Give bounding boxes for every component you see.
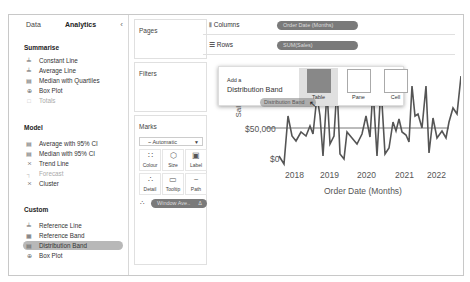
item-average-ci[interactable]: ▤Average with 95% CI	[25, 139, 98, 148]
section-summarise-title: Summarise	[24, 44, 59, 51]
y-tick-0: $0	[270, 154, 279, 164]
popup-title: Distribution Band	[227, 85, 283, 94]
rows-shelf[interactable]: ☰ Rows SUM(Sales)	[203, 37, 455, 55]
path-button[interactable]: ~Path	[185, 173, 207, 195]
columns-label: ⫴ Columns	[209, 21, 239, 29]
section-model-title: Model	[24, 124, 43, 131]
item-median-quartiles[interactable]: ▤Median with Quartiles	[25, 76, 100, 85]
average-ci-icon: ▤	[25, 140, 33, 147]
item-reference-band[interactable]: ▦Reference Band	[25, 231, 85, 240]
box-plot-icon: ⊕	[25, 252, 33, 259]
x-tick-2020: 2020	[357, 170, 376, 180]
window-avg-pill[interactable]: Window Ave.. Δ	[151, 199, 207, 208]
table-scope-icon	[307, 69, 331, 93]
item-cluster[interactable]: ⨯Cluster	[25, 179, 59, 188]
pages-title: Pages	[139, 27, 157, 34]
item-box-plot-custom[interactable]: ⊕Box Plot	[25, 251, 62, 260]
item-average-line[interactable]: ╧Average Line	[25, 66, 76, 75]
mark-type-dropdown[interactable]: ~ Automatic ▼	[139, 137, 203, 146]
rows-icon: ☰	[209, 41, 217, 48]
detail-field-icon: ∴	[140, 199, 144, 207]
filters-card[interactable]: Filters	[134, 62, 207, 112]
collapse-pane-icon[interactable]: ‹	[120, 20, 123, 29]
x-tick-2019: 2019	[320, 170, 339, 180]
item-trend-line[interactable]: ⨯Trend Line	[25, 159, 69, 168]
constant-line-icon: ╧	[25, 58, 33, 64]
chevron-down-icon: ▼	[194, 138, 199, 146]
item-constant-line[interactable]: ╧Constant Line	[25, 56, 78, 65]
tab-data[interactable]: Data	[26, 21, 41, 28]
size-icon: ⬡	[163, 150, 183, 162]
warning-icon: Δ	[198, 199, 202, 208]
sum-sales-pill[interactable]: SUM(Sales)	[277, 41, 358, 50]
x-axis-label: Order Date (Months)	[324, 186, 402, 196]
y-tick-50000: $50,000	[245, 124, 276, 134]
median-ci-icon: ▤	[25, 150, 33, 157]
item-median-ci[interactable]: ▤Median with 95% CI	[25, 149, 95, 158]
item-distribution-band[interactable]: ▤Distribution Band	[23, 241, 123, 250]
rows-label: ☰ Rows	[209, 41, 233, 49]
reference-band-icon: ▦	[25, 232, 33, 239]
drag-ghost: Distribution Band	[260, 98, 316, 107]
pages-card[interactable]: Pages	[134, 19, 207, 59]
detail-button[interactable]: ∴Detail	[139, 173, 161, 195]
x-tick-2018: 2018	[285, 170, 304, 180]
filters-title: Filters	[139, 70, 157, 77]
path-icon: ~	[186, 174, 206, 186]
item-totals: □Totals	[25, 96, 55, 105]
tab-analytics[interactable]: Analytics	[65, 21, 96, 28]
marks-card: Marks ~ Automatic ▼ ∷Colour ⬡Size ▣Label…	[134, 115, 207, 265]
order-date-pill[interactable]: Order Date (Months)	[277, 21, 358, 30]
label-icon: ▣	[186, 150, 206, 162]
trend-line-icon: ⨯	[25, 160, 33, 167]
distribution-band-icon: ▤	[25, 242, 33, 249]
pane-scope-icon	[347, 69, 371, 93]
label-button[interactable]: ▣Label	[185, 149, 207, 171]
scope-pane-option[interactable]: Pane	[339, 68, 378, 105]
size-button[interactable]: ⬡Size	[162, 149, 184, 171]
colour-button[interactable]: ∷Colour	[139, 149, 161, 171]
x-tick-2021: 2021	[395, 170, 414, 180]
tooltip-icon: ▭	[163, 174, 183, 186]
cluster-icon: ⨯	[25, 180, 33, 187]
pane-tabs: Data Analytics ‹	[9, 15, 128, 37]
detail-icon: ∴	[140, 174, 160, 186]
cards-column: Pages Filters Marks ~ Automatic ▼ ∷Colou…	[130, 15, 210, 275]
average-line-icon: ╧	[25, 68, 33, 74]
reference-line-icon: ╧	[25, 223, 33, 229]
item-box-plot[interactable]: ⊕Box Plot	[25, 86, 62, 95]
totals-icon: □	[25, 98, 33, 104]
tooltip-button[interactable]: ▭Tooltip	[162, 173, 184, 195]
marks-title: Marks	[139, 123, 157, 130]
item-reference-line[interactable]: ╧Reference Line	[25, 221, 82, 230]
x-tick-2022: 2022	[427, 170, 446, 180]
item-forecast: ┐Forecast	[25, 169, 64, 178]
cell-scope-icon	[384, 69, 408, 93]
popup-subtitle: Add a	[227, 77, 241, 83]
section-custom-title: Custom	[24, 206, 48, 213]
median-quartiles-icon: ▤	[25, 77, 33, 84]
columns-shelf[interactable]: ⫴ Columns Order Date (Months)	[203, 17, 455, 35]
forecast-icon: ┐	[25, 171, 33, 177]
colour-icon: ∷	[140, 150, 160, 162]
cursor-arrow-icon: ↖	[309, 99, 317, 109]
analytics-pane: Data Analytics ‹ Summarise ╧Constant Lin…	[9, 15, 129, 275]
box-plot-icon: ⊕	[25, 87, 33, 94]
scope-cell-option[interactable]: Cell	[376, 68, 415, 105]
